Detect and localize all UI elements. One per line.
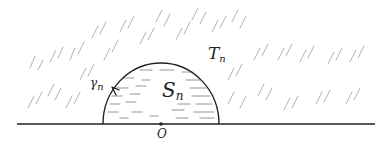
label-t-main: T: [208, 43, 219, 63]
label-s-sub: n: [176, 89, 184, 103]
label-t-sub: n: [219, 53, 225, 64]
label-s-n: Sn: [162, 80, 183, 102]
label-origin: O: [157, 128, 167, 140]
label-gamma-sub: n: [97, 81, 103, 92]
semicircle-curve: [103, 63, 219, 124]
label-gamma-n: γn: [90, 77, 104, 92]
origin-point: [159, 122, 163, 126]
outer-region-hatching: [28, 8, 364, 110]
diagram-canvas: [0, 0, 391, 146]
label-t-n: Tn: [208, 45, 226, 64]
label-s-main: S: [162, 78, 176, 102]
